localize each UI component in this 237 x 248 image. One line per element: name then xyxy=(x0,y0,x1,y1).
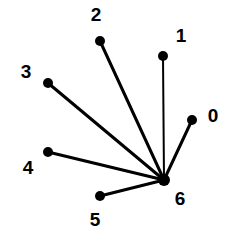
graph-edge-6-5 xyxy=(100,180,164,196)
graph-node-label-5: 5 xyxy=(90,209,101,230)
graph-node-3[interactable] xyxy=(43,78,53,88)
graph-node-label-2: 2 xyxy=(91,4,102,25)
graph-node-label-0: 0 xyxy=(208,105,219,126)
edges-layer xyxy=(48,41,192,196)
graph-edge-6-2 xyxy=(100,41,164,180)
graph-edge-6-0 xyxy=(164,120,192,180)
graph-node-label-3: 3 xyxy=(21,61,32,82)
nodes-layer xyxy=(43,36,197,201)
graph-node-label-4: 4 xyxy=(23,157,34,178)
graph-node-label-6: 6 xyxy=(175,188,186,209)
graph-canvas: 0123456 xyxy=(0,0,237,248)
graph-node-2[interactable] xyxy=(95,36,105,46)
graph-node-1[interactable] xyxy=(158,51,168,61)
graph-node-label-1: 1 xyxy=(176,25,187,46)
graph-node-6[interactable] xyxy=(158,174,170,186)
graph-node-4[interactable] xyxy=(43,147,53,157)
graph-edge-6-1 xyxy=(163,56,164,180)
graph-node-0[interactable] xyxy=(187,115,197,125)
graph-node-5[interactable] xyxy=(95,191,105,201)
graph-figure: 0123456 xyxy=(0,0,237,248)
